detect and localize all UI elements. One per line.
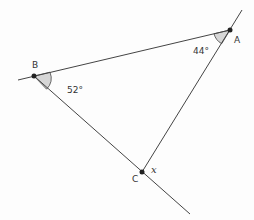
triangle-figure bbox=[0, 0, 254, 220]
angle-x-value: x bbox=[151, 164, 157, 175]
line-bc bbox=[34, 76, 190, 214]
point-c bbox=[140, 170, 145, 175]
angle-a-value: 44° bbox=[193, 46, 209, 56]
point-a bbox=[228, 28, 233, 33]
line-ac bbox=[142, 10, 242, 172]
point-b bbox=[32, 74, 37, 79]
label-b: B bbox=[32, 60, 38, 70]
label-a: A bbox=[234, 35, 240, 45]
diagram-canvas: A B C 44° 52° x bbox=[0, 0, 254, 220]
angle-b-value: 52° bbox=[67, 85, 83, 95]
angle-b-marker bbox=[34, 72, 51, 89]
label-c: C bbox=[132, 174, 138, 184]
